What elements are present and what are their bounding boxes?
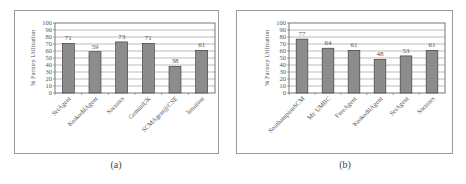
bar (116, 42, 128, 93)
chart-b-caption: (b) (325, 159, 365, 170)
bar (62, 43, 74, 93)
x-tick-label: Socrates (105, 94, 126, 115)
bar (296, 39, 308, 93)
chart-a-caption: (a) (96, 159, 136, 170)
data-label: 64 (325, 39, 333, 47)
data-label: 77 (299, 30, 307, 38)
y-tick-label: 40 (46, 61, 53, 68)
y-tick-label: 80 (46, 33, 53, 40)
x-tick-label: FreeAgent (333, 95, 357, 119)
y-tick-label: 80 (280, 33, 287, 40)
y-tick-label: 70 (46, 40, 53, 47)
y-tick-label: 60 (46, 47, 53, 54)
data-label: 71 (65, 34, 73, 42)
x-tick-label: GeminiUK (127, 95, 153, 121)
x-tick-label: SetAgent (388, 95, 410, 117)
y-tick-label: 100 (42, 19, 52, 26)
y-tick-label: 50 (46, 54, 53, 61)
x-tick-label: Mr. UMBC (306, 95, 332, 121)
x-tick-label: SetAgent (50, 95, 72, 117)
y-tick-label: 50 (280, 54, 287, 61)
data-label: 61 (198, 41, 206, 49)
data-label: 73 (118, 33, 126, 41)
y-tick-label: 90 (280, 26, 287, 33)
x-tick-label: SouthamptonSCM (267, 95, 306, 134)
y-tick-label: 60 (280, 47, 287, 54)
bar (322, 48, 334, 93)
data-label: 61 (429, 41, 437, 49)
bar (426, 50, 438, 93)
data-label: 53 (403, 47, 411, 55)
chart-a: 0102030405060708090100% Factory Utilizat… (15, 11, 220, 155)
data-label: 61 (351, 41, 359, 49)
y-tick-label: 40 (280, 61, 287, 68)
y-tick-label: 70 (280, 40, 287, 47)
bar (348, 50, 360, 93)
x-tick-label: Socrates (415, 94, 436, 115)
bar (196, 50, 208, 93)
y-tick-label: 20 (280, 75, 287, 82)
y-tick-label: 30 (46, 68, 53, 75)
chart-b-frame: 0102030405060708090100% Factory Utilizat… (236, 10, 453, 154)
y-tick-label: 0 (283, 89, 286, 96)
data-label: 48 (377, 50, 385, 58)
x-tick-label: Intuition (185, 94, 206, 115)
bar (400, 56, 412, 93)
y-axis-label: % Factory Utilization (263, 29, 270, 86)
bar (89, 52, 101, 93)
y-tick-label: 0 (49, 89, 52, 96)
y-tick-label: 90 (46, 26, 53, 33)
y-tick-label: 30 (280, 68, 287, 75)
y-tick-label: 10 (46, 82, 53, 89)
chart-a-frame: 0102030405060708090100% Factory Utilizat… (14, 10, 219, 154)
y-tick-label: 10 (280, 82, 287, 89)
data-label: 38 (172, 57, 180, 65)
y-axis-label: % Factory Utilization (29, 29, 36, 86)
bar (142, 43, 154, 93)
y-tick-label: 100 (276, 19, 286, 26)
chart-b: 0102030405060708090100% Factory Utilizat… (237, 11, 454, 155)
y-tick-label: 20 (46, 75, 53, 82)
data-label: 59 (92, 43, 100, 51)
bar (374, 59, 386, 93)
bar (169, 66, 181, 93)
data-label: 71 (145, 34, 153, 42)
